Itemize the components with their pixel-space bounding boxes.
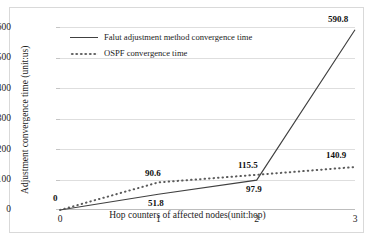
y-axis-title: Adjustment convergence time (unit:us)	[21, 25, 31, 215]
figure-caption-cutoff	[8, 238, 208, 246]
legend-line-solid-icon	[70, 34, 98, 42]
y-tick-label-400: 400	[0, 84, 11, 94]
legend-item-falut-adjustment[interactable]: Falut adjustment method convergence time	[70, 31, 252, 44]
data-label-s2-90-6: 90.6	[145, 169, 161, 178]
y-tick-label-500: 500	[0, 53, 11, 63]
y-tick-label-300: 300	[0, 114, 11, 124]
x-axis-title: Hop counters of affected nodes(unit:hop)	[10, 211, 365, 221]
y-tick-label-200: 200	[0, 145, 11, 155]
legend-label-ospf: OSPF convergence time	[104, 49, 187, 58]
legend-label-falut-adjustment: Falut adjustment method convergence time	[104, 33, 252, 42]
data-label-s2-115-5: 115.5	[238, 161, 258, 170]
legend-line-dotted-icon	[70, 50, 98, 58]
data-label-s1-51-8: 51.8	[148, 199, 164, 208]
legend-item-ospf[interactable]: OSPF convergence time	[70, 47, 252, 60]
y-tick-label-600: 600	[0, 23, 11, 33]
data-label-s2-140-9: 140.9	[326, 151, 346, 160]
chart-frame: Adjustment convergence time (unit:us) 60…	[9, 7, 364, 233]
figure-container: Adjustment convergence time (unit:us) 60…	[0, 0, 373, 248]
series-ospf-line	[60, 167, 355, 210]
y-tick-label-100: 100	[0, 175, 11, 185]
data-label-s1-97-9: 97.9	[246, 185, 262, 194]
legend: Falut adjustment method convergence time…	[70, 31, 252, 60]
data-label-s1-590-8: 590.8	[328, 15, 348, 24]
data-label-origin-zero: 0	[53, 194, 58, 203]
